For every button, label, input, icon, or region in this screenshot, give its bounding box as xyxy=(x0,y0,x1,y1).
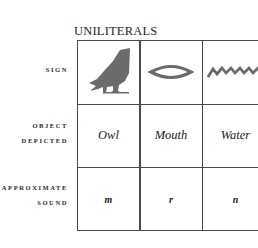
uniliterals-table: Owl Mouth Water m r n xyxy=(77,40,258,231)
owl-hieroglyph-icon xyxy=(86,47,132,97)
row-label-sound-line1: APPROXIMATE xyxy=(2,180,68,195)
sound-cell: r xyxy=(141,168,202,230)
row-label-sign-line: SIGN xyxy=(46,62,68,77)
row-label-sign: SIGN xyxy=(46,62,68,77)
sign-cell-water xyxy=(203,41,258,103)
row-label-object-line2: DEPICTED xyxy=(22,133,68,148)
sound-cell: m xyxy=(78,168,139,230)
row-label-sound-line2: SOUND xyxy=(2,195,68,210)
object-cell: Owl xyxy=(78,105,139,166)
mouth-hieroglyph-icon xyxy=(148,64,194,80)
row-label-object-line1: OBJECT xyxy=(22,118,68,133)
sound-cell: n xyxy=(203,168,258,230)
sign-cell-mouth xyxy=(141,41,202,103)
object-cell: Water xyxy=(203,105,258,166)
object-cell: Mouth xyxy=(141,105,202,166)
row-label-sound: APPROXIMATE SOUND xyxy=(2,180,68,210)
row-label-object: OBJECT DEPICTED xyxy=(22,118,68,148)
table-title: UNILITERALS xyxy=(74,24,157,39)
water-hieroglyph-icon xyxy=(207,65,258,79)
sign-cell-owl xyxy=(78,41,139,103)
